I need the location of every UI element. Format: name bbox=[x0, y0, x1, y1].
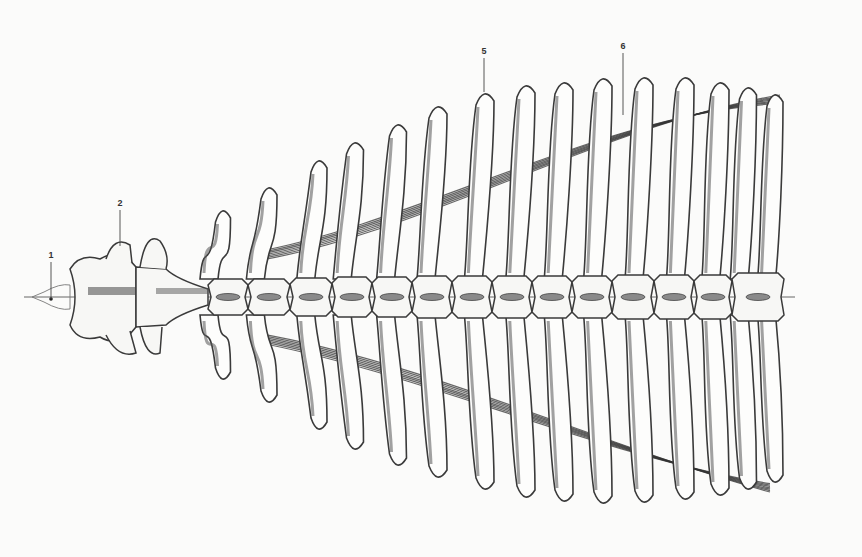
label-number: 5 bbox=[481, 46, 486, 56]
vertebra-t bbox=[492, 276, 532, 318]
vertebra-t bbox=[248, 279, 290, 315]
label-number: 1 bbox=[48, 250, 53, 260]
vertebra-t bbox=[372, 277, 412, 317]
label-number: 2 bbox=[117, 198, 122, 208]
vertebra-t bbox=[532, 276, 572, 318]
vertebra-t bbox=[208, 279, 248, 315]
vertebra-t bbox=[572, 276, 612, 318]
vertebra-t bbox=[452, 276, 492, 318]
vertebra-t bbox=[654, 275, 694, 319]
vertebra-t bbox=[412, 276, 452, 318]
vertebra-t bbox=[290, 278, 332, 316]
vertebra-t bbox=[694, 275, 732, 319]
rib-cage-illustration: 1256 bbox=[0, 0, 862, 557]
vertebra-t bbox=[612, 275, 654, 319]
label-number: 6 bbox=[620, 41, 625, 51]
vertebra-t bbox=[332, 277, 372, 317]
vertebra-l bbox=[732, 273, 784, 321]
